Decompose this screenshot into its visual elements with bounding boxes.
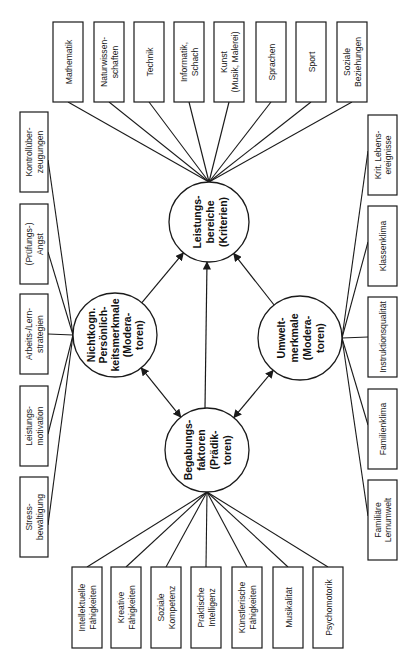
talent-box-label: KünstlerischeFähigkeiten bbox=[237, 581, 258, 633]
noncognitive-box: Arbeits-/Lern-strategien bbox=[20, 294, 48, 374]
noncognitive-connector bbox=[48, 335, 73, 525]
criteria-box: SozialeBeziehungen bbox=[337, 22, 367, 102]
talent-connector bbox=[126, 492, 207, 567]
talent-label-line: (Prädik- bbox=[208, 430, 220, 470]
noncognitive-connector bbox=[48, 334, 73, 335]
noncognitive-box: Stress-bewältigung bbox=[20, 477, 48, 557]
environment-box-label-line: Familiäre bbox=[373, 502, 383, 538]
noncognitive-box-label-line: bewältigung bbox=[35, 494, 45, 540]
double-arrow bbox=[141, 368, 181, 417]
environment-box: Krit. Lebens-ereignisse bbox=[368, 115, 397, 195]
environment-box-label: Familienklima bbox=[378, 403, 388, 456]
criteria-box-label: Technik bbox=[145, 47, 155, 77]
criteria-connector bbox=[149, 102, 209, 182]
environment-box-label-line: Instruktionsqualität bbox=[378, 301, 388, 373]
criteria-label-line: (Kriterien) bbox=[217, 197, 229, 247]
criteria-box: Kunst(Musik, Malerei) bbox=[214, 22, 244, 102]
criteria-connector bbox=[109, 102, 209, 182]
talent-label-line: toren) bbox=[221, 435, 233, 465]
double-arrow bbox=[234, 370, 273, 417]
noncognitive-box: (Prüfungs-)Angst bbox=[20, 204, 48, 284]
talent-box-label-line: Kompetenz bbox=[167, 586, 177, 629]
criteria-box-label: Sprachen bbox=[267, 43, 277, 80]
criteria-box-label-line: Soziale bbox=[342, 48, 352, 76]
criteria-label: Leistungs-bereiche(Kriterien) bbox=[191, 195, 229, 249]
noncognitive-label-line: toren) bbox=[133, 320, 145, 350]
talent-box-label: PraktischeIntelligenz bbox=[196, 587, 217, 627]
environment-box-label-line: Familienklima bbox=[378, 403, 388, 456]
environment-box: FamiliäreLernumwelt bbox=[368, 480, 397, 560]
environment-box-label: Instruktionsqualität bbox=[378, 301, 388, 373]
talent-box-label: IntellektuelleFähigkeiten bbox=[77, 583, 98, 631]
arrow bbox=[142, 253, 184, 303]
criteria-box-label-line: Beziehungen bbox=[353, 37, 363, 87]
talent-box-label-line: Intellektuelle bbox=[77, 583, 87, 631]
noncognitive-box: Leistungs-motivation bbox=[20, 386, 48, 466]
talent-box-label: Musikalität bbox=[284, 587, 294, 628]
environment-connector bbox=[342, 338, 368, 516]
talent-box: Psychomotorik bbox=[313, 567, 343, 648]
environment-label-line: merkmale bbox=[288, 313, 300, 362]
talent-node: Begabungs-faktoren(Prädik-toren) bbox=[165, 408, 249, 492]
criteria-box-label-line: schaften bbox=[110, 46, 120, 79]
talent-box-label: Psychomotorik bbox=[324, 579, 334, 636]
noncognitive-box-label-line: Angst bbox=[35, 232, 45, 255]
talent-model-diagram: MathematikNaturwissen-schaftenTechnikInf… bbox=[0, 0, 415, 669]
talent-box-label-line: Psychomotorik bbox=[324, 579, 334, 636]
criteria-connector bbox=[209, 102, 229, 182]
criteria-box-label-line: Schach bbox=[190, 47, 200, 76]
environment-box-label: FamiliäreLernumwelt bbox=[373, 497, 394, 542]
criteria-box-label-line: Mathematik bbox=[64, 39, 74, 84]
noncognitive-box-label-line: Leistungs- bbox=[24, 406, 34, 446]
talent-box-label-line: Fähigkeiten bbox=[248, 585, 258, 630]
talent-connector bbox=[206, 492, 207, 567]
environment-connector bbox=[342, 338, 368, 425]
noncognitive-label-line: keitsmerkmale bbox=[109, 298, 121, 371]
talent-box: PraktischeIntelligenz bbox=[191, 567, 221, 648]
talent-box-label-line: Künstlerische bbox=[237, 581, 247, 633]
noncognitive-box-label-line: (Prüfungs-) bbox=[24, 222, 34, 265]
noncognitive-connector bbox=[48, 335, 73, 434]
criteria-box-label-line: Naturwissen- bbox=[99, 37, 109, 87]
criteria-connector bbox=[209, 102, 311, 182]
criteria-box-label: Informatik,Schach bbox=[179, 42, 200, 82]
talent-box-label-line: Praktische bbox=[196, 587, 206, 627]
talent-box: IntellektuelleFähigkeiten bbox=[72, 567, 102, 648]
environment-box: Familienklima bbox=[368, 389, 397, 469]
noncognitive-box-label-line: Kontrollüber- bbox=[24, 127, 34, 176]
noncognitive-box-label-line: strategien bbox=[35, 315, 45, 353]
criteria-box-label-line: Sprachen bbox=[267, 43, 277, 80]
talent-connector bbox=[87, 492, 207, 567]
construct-nodes: Leistungs-bereiche(Kriterien)Nichtkogn.P… bbox=[73, 182, 342, 492]
talent-box: KünstlerischeFähigkeiten bbox=[232, 567, 262, 648]
noncognitive-box-label-line: Stress- bbox=[24, 503, 34, 530]
environment-label-line: (Modera- bbox=[301, 315, 313, 360]
noncognitive-label-line: (Modera- bbox=[121, 312, 133, 357]
talent-box-label-line: Musikalität bbox=[284, 587, 294, 628]
noncognitive-label-line: Nichtkogn. bbox=[85, 308, 97, 362]
environment-box-label-line: Lernumwelt bbox=[383, 497, 393, 542]
criteria-node: Leistungs-bereiche(Kriterien) bbox=[169, 182, 249, 262]
talent-box-label-line: Fähigkeiten bbox=[127, 585, 137, 630]
talent-box: KreativeFähigkeiten bbox=[111, 567, 141, 648]
criteria-box: Informatik,Schach bbox=[174, 22, 204, 102]
criteria-box: Mathematik bbox=[53, 22, 83, 102]
environment-label-line: toren) bbox=[314, 323, 326, 353]
criteria-box-label-line: Kunst bbox=[219, 50, 229, 73]
talent-connector bbox=[207, 492, 328, 567]
environment-box-label: Klassenklima bbox=[378, 220, 388, 271]
environment-box: Klassenklima bbox=[368, 206, 397, 286]
criteria-box-label: Sport bbox=[307, 51, 317, 72]
environment-node: Umwelt-merkmale(Modera-toren) bbox=[258, 296, 342, 380]
criteria-box: Technik bbox=[134, 22, 164, 102]
talent-label-line: faktoren bbox=[195, 429, 207, 470]
criteria-box: Naturwissen-schaften bbox=[94, 22, 124, 102]
environment-connector bbox=[342, 337, 368, 338]
talent-connector bbox=[207, 492, 247, 567]
noncognitive-box-label: Kontrollüber-zeugungen bbox=[24, 127, 45, 176]
noncognitive-box: Kontrollüber-zeugungen bbox=[20, 112, 48, 192]
environment-box-label-line: ereignisse bbox=[383, 135, 393, 174]
noncognitive-box-label: Arbeits-/Lern-strategien bbox=[24, 308, 45, 360]
talent-box-label-line: Intelligenz bbox=[207, 588, 217, 627]
criteria-label-line: bereiche bbox=[204, 200, 216, 243]
